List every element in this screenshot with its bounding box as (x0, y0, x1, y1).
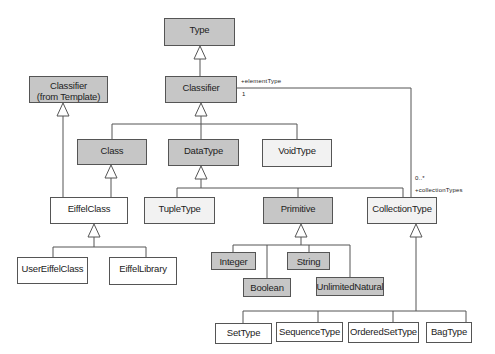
class-unlimitednatural[interactable]: UnlimitedNatural (316, 277, 384, 296)
class-primitive[interactable]: Primitive (263, 197, 333, 224)
classifier-template-line1: Classifier (50, 80, 87, 91)
class-bagtype[interactable]: BagType (426, 322, 472, 343)
class-tupletype[interactable]: TupleType (144, 197, 215, 224)
class-class[interactable]: Class (77, 139, 147, 165)
class-unlimitednatural-label: UnlimitedNatural (316, 281, 383, 292)
class-orderedsettype[interactable]: OrderedSetType (348, 322, 419, 343)
class-class-label: Class (101, 145, 124, 156)
class-orderedsettype-label: OrderedSetType (350, 326, 417, 337)
role-element-type: +elementType (241, 78, 281, 84)
class-integer[interactable]: Integer (211, 252, 256, 270)
class-settype-label: SetType (227, 327, 260, 338)
class-usereiffelclass-label: UserEiffelClass (22, 263, 84, 274)
role-collection-types: +collectionTypes (415, 187, 463, 193)
class-voidtype-label: VoidType (278, 145, 316, 156)
uml-diagram: +elementType 1 0..* +collectionTypes Typ… (0, 0, 495, 354)
classifier-template-line2: (from Template) (37, 91, 100, 102)
class-eiffellibrary[interactable]: EiffelLibrary (109, 257, 177, 285)
class-datatype[interactable]: DataType (168, 139, 239, 166)
class-string[interactable]: String (287, 252, 330, 270)
multiplicity-one: 1 (242, 91, 246, 97)
class-string-label: String (297, 256, 321, 267)
class-type[interactable]: Type (164, 18, 235, 46)
class-collectiontype-label: CollectionType (372, 203, 432, 214)
class-sequencetype-label: SequenceType (279, 326, 340, 337)
class-usereiffelclass[interactable]: UserEiffelClass (17, 257, 88, 284)
class-type-label: Type (190, 24, 210, 35)
class-eiffelclass-label: EiffelClass (68, 203, 111, 214)
class-boolean-label: Boolean (250, 282, 283, 293)
class-classifier-from-template[interactable]: Classifier (from Template) (29, 76, 108, 103)
class-primitive-label: Primitive (281, 203, 316, 214)
class-classifier-label: Classifier (182, 82, 219, 93)
class-collectiontype[interactable]: CollectionType (367, 197, 437, 224)
class-settype[interactable]: SetType (215, 323, 272, 344)
class-eiffellibrary-label: EiffelLibrary (119, 263, 166, 274)
multiplicity-many: 0..* (415, 175, 425, 181)
class-bagtype-label: BagType (431, 326, 467, 337)
class-sequencetype[interactable]: SequenceType (276, 322, 343, 342)
class-integer-label: Integer (219, 256, 247, 267)
class-boolean[interactable]: Boolean (243, 278, 291, 297)
class-eiffelclass[interactable]: EiffelClass (50, 197, 128, 224)
class-datatype-label: DataType (184, 145, 223, 156)
class-voidtype[interactable]: VoidType (262, 139, 332, 167)
class-tupletype-label: TupleType (158, 203, 200, 214)
class-classifier[interactable]: Classifier (165, 76, 237, 103)
